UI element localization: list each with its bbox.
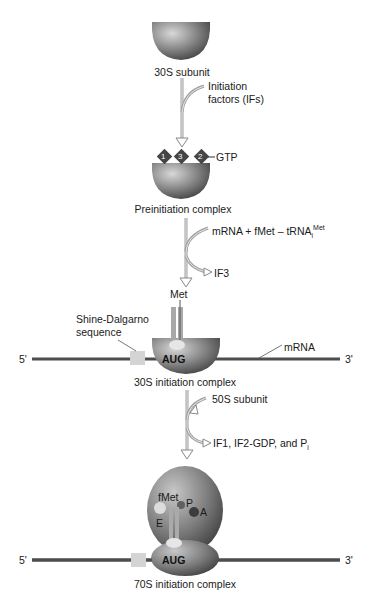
label-50s-subunit: 50S subunit [212,393,267,405]
arrow-step2 [180,218,212,287]
factor-if3: 3 [178,151,182,163]
label-shine-dalgarno-line1: Shine-Dalgarno [76,313,149,325]
label-p-site: P [186,497,193,509]
label-aug-70s: AUG [162,554,185,566]
label-initiation-factors-line1: Initiation [208,80,247,92]
label-initiation-factors-line2: factors (IFs) [208,93,264,105]
trna-30s [169,300,185,350]
label-30s-initiation-complex: 30S initiation complex [125,376,245,388]
label-30s-subunit: 30S subunit [151,66,213,78]
label-fmet: fMet [158,491,178,503]
e-site [154,502,166,514]
label-aug-30s: AUG [162,353,185,365]
label-gtp: GTP [216,151,238,163]
initiation-factors [157,149,215,165]
label-e-site: E [156,517,163,529]
factor-if2: 2 [198,151,202,163]
label-a-site: A [200,506,207,518]
shine-dalgarno-box-70s [131,553,146,567]
label-3prime-30s: 3' [345,353,353,365]
label-shine-dalgarno-line2: sequence [76,326,122,338]
label-if3: IF3 [214,267,229,279]
label-5prime-30s: 5' [19,353,27,365]
label-preinitiation-complex: Preinitiation complex [128,203,238,215]
label-70s-initiation-complex: 70S initiation complex [125,578,245,590]
30s-subunit-shape [152,22,210,60]
label-met: Met [170,288,188,300]
arrow-step1 [176,78,204,147]
label-mrna: mRNA [284,341,315,353]
label-if1-if2gdp-pi: IF1, IF2-GDP, and Pi [213,437,309,454]
factor-if1: 1 [161,151,165,163]
preinit-ribosome-shape [152,163,210,199]
label-mrna-fmet-trna: mRNA + fMet – tRNAiMet [212,222,325,242]
arrow-step3 [181,390,211,459]
label-5prime-70s: 5' [19,554,27,566]
shine-dalgarno-box [130,351,145,365]
translation-initiation-diagram [0,0,373,613]
label-3prime-70s: 3' [345,554,353,566]
